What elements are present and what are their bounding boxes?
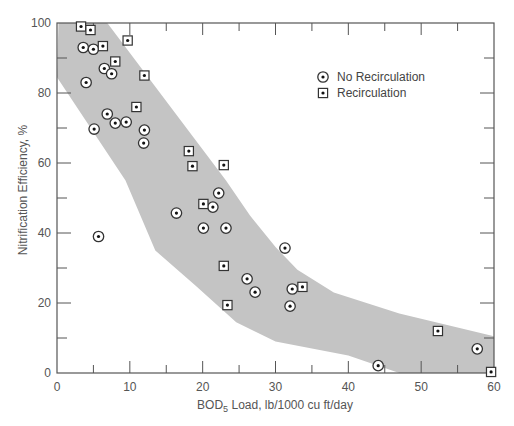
circle-dot-marker: [213, 188, 223, 198]
square-dot-marker: [140, 71, 149, 80]
square-dot-marker: [86, 25, 95, 34]
y-tick-label: 100: [31, 16, 51, 30]
circle-dot-marker: [198, 223, 208, 233]
circle-dot-marker: [472, 344, 482, 354]
square-dot-marker: [486, 367, 495, 376]
square-dot-marker: [111, 57, 120, 66]
x-tick-label: 40: [342, 380, 356, 394]
square-dot-marker: [132, 102, 141, 111]
square-dot-marker: [219, 261, 228, 270]
scatter-chart: 0102030405060020406080100 No Recirculati…: [0, 0, 514, 426]
square-dot-marker: [98, 42, 107, 51]
x-axis-label: BOD5 Load, lb/1000 cu ft/day: [197, 398, 353, 414]
square-dot-marker: [219, 161, 228, 170]
y-tick-label: 80: [38, 86, 52, 100]
circle-dot-marker: [138, 138, 148, 148]
square-dot-marker: [199, 199, 208, 208]
square-dot-marker: [318, 88, 327, 97]
square-dot-icon: [318, 88, 327, 97]
efficiency-band: [57, 23, 494, 373]
circle-dot-marker: [106, 69, 116, 79]
square-dot-marker: [76, 22, 85, 31]
circle-dot-marker: [285, 301, 295, 311]
circle-dot-marker: [78, 42, 88, 52]
circle-dot-marker: [88, 44, 98, 54]
circle-dot-marker: [121, 117, 131, 127]
x-tick-label: 60: [487, 380, 501, 394]
circle-dot-marker: [81, 77, 91, 87]
legend-item-no-recirculation: No Recirculation: [318, 70, 425, 84]
y-tick-label: 60: [38, 156, 52, 170]
x-tick-label: 50: [414, 380, 428, 394]
circle-dot-marker: [208, 202, 218, 212]
circle-dot-marker: [110, 118, 120, 128]
circle-dot-marker: [373, 360, 383, 370]
circle-dot-marker: [93, 231, 103, 241]
y-axis-label: Nitrification Efficiency, %: [16, 125, 30, 256]
square-dot-marker: [184, 147, 193, 156]
circle-dot-marker: [250, 287, 260, 297]
x-tick-label: 30: [269, 380, 283, 394]
square-dot-marker: [123, 36, 132, 45]
circle-dot-marker: [287, 284, 297, 294]
legend-item-recirculation: Recirculation: [318, 86, 406, 100]
circle-dot-marker: [280, 243, 290, 253]
circle-dot-marker: [139, 125, 149, 135]
circle-dot-marker: [242, 274, 252, 284]
legend-label-recirculation: Recirculation: [337, 86, 406, 100]
square-dot-marker: [298, 282, 307, 291]
square-dot-marker: [188, 162, 197, 171]
y-tick-label: 0: [44, 366, 51, 380]
circle-dot-marker: [171, 208, 181, 218]
legend-label-no-recirculation: No Recirculation: [337, 70, 425, 84]
circle-dot-icon: [318, 72, 328, 82]
square-dot-marker: [433, 326, 442, 335]
circle-dot-marker: [89, 124, 99, 134]
x-tick-label: 10: [123, 380, 137, 394]
x-tick-label: 0: [54, 380, 61, 394]
x-tick-label: 20: [196, 380, 210, 394]
circle-dot-marker: [102, 109, 112, 119]
y-tick-label: 20: [38, 296, 52, 310]
circle-dot-marker: [318, 72, 328, 82]
y-tick-label: 40: [38, 226, 52, 240]
circle-dot-marker: [221, 223, 231, 233]
square-dot-marker: [223, 301, 232, 310]
legend: No Recirculation Recirculation: [318, 70, 425, 100]
